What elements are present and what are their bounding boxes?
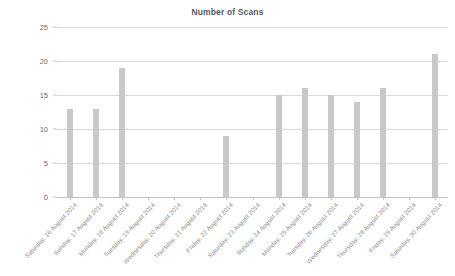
bar[interactable] bbox=[354, 102, 360, 197]
bar[interactable] bbox=[67, 109, 73, 197]
x-axis-tick-mark bbox=[383, 197, 384, 200]
bar-slot bbox=[161, 27, 187, 197]
x-axis-labels: Saturday, 16 August 2014Sunday, 17 Augus… bbox=[57, 201, 448, 276]
bar-slot bbox=[57, 27, 83, 197]
x-axis-category-label: Sunday, 24 August 2014 bbox=[234, 201, 286, 256]
x-axis-category-label: Saturday, 23 August 2014 bbox=[206, 201, 261, 259]
x-axis-tick-mark bbox=[305, 197, 306, 200]
x-axis-tick-mark bbox=[226, 197, 227, 200]
x-axis-category-label: Friday, 29 August 2014 bbox=[367, 201, 417, 254]
bar-slot bbox=[213, 27, 239, 197]
x-axis-tick-mark bbox=[200, 197, 201, 200]
y-axis-tick-label: 5 bbox=[44, 159, 48, 168]
x-axis-category-label: Tuesday, 19 August 2014 bbox=[102, 201, 156, 258]
x-axis-category-label: Monday, 18 August 2014 bbox=[77, 201, 130, 257]
x-axis-category-label: Tuesday, 26 August 2014 bbox=[285, 201, 339, 258]
bar-slot bbox=[239, 27, 265, 197]
bar[interactable] bbox=[276, 95, 282, 197]
bar[interactable] bbox=[432, 54, 438, 197]
x-axis-tick-mark bbox=[174, 197, 175, 200]
bar-slot bbox=[318, 27, 344, 197]
x-axis-tick-mark bbox=[122, 197, 123, 200]
x-axis-tick-mark bbox=[96, 197, 97, 200]
y-axis: 0510152025 bbox=[0, 27, 57, 197]
y-axis-tick-label: 10 bbox=[40, 125, 48, 134]
plot-area bbox=[57, 27, 448, 197]
x-axis-category-label: Saturday, 30 August 2014 bbox=[388, 201, 443, 259]
bar[interactable] bbox=[119, 68, 125, 197]
x-axis-category-label: Sunday, 17 August 2014 bbox=[52, 201, 104, 256]
x-axis-tick-mark bbox=[331, 197, 332, 200]
bar-slot bbox=[396, 27, 422, 197]
x-axis-tick-mark bbox=[409, 197, 410, 200]
bar-slot bbox=[422, 27, 448, 197]
bar[interactable] bbox=[380, 88, 386, 197]
bar-slot bbox=[344, 27, 370, 197]
bar-slot bbox=[83, 27, 109, 197]
bar-slot bbox=[135, 27, 161, 197]
bar-slot bbox=[187, 27, 213, 197]
bar-slot bbox=[109, 27, 135, 197]
y-axis-tick-label: 15 bbox=[40, 91, 48, 100]
x-axis-tick-mark bbox=[279, 197, 280, 200]
chart-title: Number of Scans bbox=[0, 7, 455, 17]
x-axis-tick-mark bbox=[357, 197, 358, 200]
x-axis-tick-mark bbox=[70, 197, 71, 200]
bar[interactable] bbox=[302, 88, 308, 197]
x-axis-category-label: Friday, 22 August 2014 bbox=[185, 201, 235, 254]
x-axis-category-label: Saturday, 16 August 2014 bbox=[23, 201, 78, 259]
bar[interactable] bbox=[223, 136, 229, 197]
bar-slot bbox=[292, 27, 318, 197]
bar[interactable] bbox=[93, 109, 99, 197]
y-axis-tick-label: 0 bbox=[44, 193, 48, 202]
x-axis-tick-mark bbox=[148, 197, 149, 200]
bar-chart: Number of Scans 0510152025 Saturday, 16 … bbox=[0, 0, 455, 276]
y-axis-tick-label: 20 bbox=[40, 57, 48, 66]
bar-slot bbox=[266, 27, 292, 197]
x-axis-tick-mark bbox=[435, 197, 436, 200]
x-axis-category-label: Monday, 25 August 2014 bbox=[260, 201, 313, 257]
y-axis-tick-label: 25 bbox=[40, 23, 48, 32]
bar[interactable] bbox=[328, 95, 334, 197]
x-axis-tick-mark bbox=[253, 197, 254, 200]
bar-slot bbox=[370, 27, 396, 197]
